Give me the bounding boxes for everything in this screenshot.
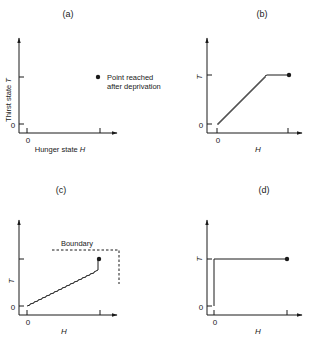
y-axis-label: Thirst state T	[4, 77, 13, 122]
boundary-label: Boundary	[61, 239, 93, 248]
x-zero-label: 0	[26, 318, 31, 327]
panel-a-title: (a)	[63, 9, 74, 19]
x-zero-label: 0	[26, 136, 31, 145]
panel-a: (a) 0 0 Thirst state T Hunger state H Po…	[4, 9, 161, 154]
trajectory	[27, 260, 98, 306]
end-point-dot	[285, 257, 289, 261]
y-symbol: T	[195, 73, 204, 79]
y-symbol: T	[7, 277, 16, 283]
x-symbol: H	[61, 327, 67, 336]
end-point-dot	[97, 257, 101, 261]
y-zero-label: 0	[11, 303, 16, 312]
legend-line2: after deprivation	[107, 82, 161, 91]
x-symbol: H	[255, 327, 261, 336]
y-zero-label: 0	[199, 121, 204, 130]
x-zero-label: 0	[216, 136, 221, 145]
panel-c-title: (c)	[56, 185, 67, 195]
figure: (a) 0 0 Thirst state T Hunger state H Po…	[0, 0, 309, 340]
x-zero-label: 0	[213, 318, 218, 327]
x-symbol: H	[255, 145, 261, 154]
trajectory	[214, 259, 287, 306]
panel-b: (b) 0 0 T H	[195, 9, 302, 154]
panel-c: (c) 0 0 T H Boundary	[7, 185, 119, 336]
trajectory	[217, 75, 289, 124]
y-symbol: T	[195, 255, 204, 261]
legend-line1: Point reached	[107, 73, 153, 82]
legend-dot	[96, 75, 100, 79]
y-zero-label: 0	[199, 303, 204, 312]
x-axis-label: Hunger state H	[35, 145, 86, 154]
panel-d: (d) 0 0 T H	[195, 185, 302, 336]
end-point-dot	[287, 73, 291, 77]
panel-d-title: (d)	[259, 185, 270, 195]
boundary-line	[52, 250, 119, 284]
panel-b-title: (b)	[257, 9, 268, 19]
